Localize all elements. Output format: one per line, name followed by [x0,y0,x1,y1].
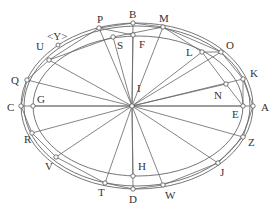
point-V [54,155,58,159]
point-F [131,33,135,37]
label-P: P [97,13,103,25]
label-Q: Q [11,74,19,86]
point-H [131,174,135,178]
point-J [216,161,220,165]
chord-MS [113,27,163,37]
point-labels: AKOMBPUQCRVTDWJZFSLNEGHI<Y> [7,8,269,205]
ray-R [32,106,132,133]
ray-U [49,60,132,106]
point-N [224,82,228,86]
point-Y [56,43,60,47]
label-J: J [220,166,225,178]
label-O: O [226,39,234,51]
ray-Z [132,106,243,137]
point-P [97,26,101,30]
point-M [161,25,165,29]
label-W: W [165,189,176,201]
point-B [131,21,135,25]
point-L [200,50,204,54]
label-K: K [250,67,258,79]
label-M: M [159,12,169,24]
ray-P [99,28,132,106]
chord-NE [226,84,243,106]
point-T [103,181,107,185]
label-G: G [37,93,45,105]
point-G [31,104,35,108]
ray-W [132,106,163,185]
diagram-canvas: AKOMBPUQCRVTDWJZFSLNEGHI<Y> [0,0,276,214]
label-S: S [117,39,123,51]
label-F: F [139,38,145,50]
ray-F [132,35,133,106]
ellipse-construction-diagram: AKOMBPUQCRVTDWJZFSLNEGHI<Y> [0,0,276,214]
label-Z: Z [248,136,255,148]
point-O [219,50,223,54]
point-W [161,183,165,187]
point-D [131,187,135,191]
chord-LN [202,52,226,84]
label-I: I [137,82,141,94]
point-S [111,35,115,39]
point-I [130,104,134,108]
label-N: N [214,89,222,101]
label-E: E [232,108,239,120]
chord-ML [163,27,202,52]
label-U: U [36,40,44,52]
point-E [241,104,245,108]
ray-T [105,106,132,183]
label-D: D [129,193,137,205]
label-H: H [138,160,146,172]
ray-J [132,106,218,163]
label-R: R [24,133,32,145]
point-Q [25,78,29,82]
label-Y: <Y> [47,30,67,42]
point-U [47,58,51,62]
point-Z [241,135,245,139]
ray-V [56,106,132,157]
point-C [19,104,23,108]
point-K [241,77,245,81]
label-A: A [261,101,269,113]
ray-H [132,106,133,176]
point-A [251,104,255,108]
label-T: T [98,186,105,198]
label-B: B [129,8,136,20]
label-V: V [45,160,53,172]
label-L: L [186,46,193,58]
label-C: C [7,101,14,113]
